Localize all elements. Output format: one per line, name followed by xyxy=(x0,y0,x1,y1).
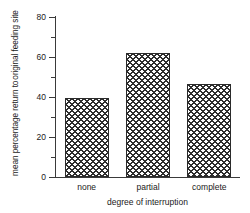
bar-partial xyxy=(126,53,170,177)
y-tick-major-0 xyxy=(49,177,55,178)
bar-none xyxy=(65,98,109,177)
y-tick-minor-30 xyxy=(51,117,55,118)
bars-layer xyxy=(56,17,240,177)
y-tick-major-20 xyxy=(49,137,55,138)
bar-complete xyxy=(187,84,231,177)
y-tick-major-80 xyxy=(49,17,55,18)
y-tick-label-80: 80 xyxy=(24,13,46,22)
y-tick-minor-70 xyxy=(51,37,55,38)
y-axis-title-line-2: original feeding site xyxy=(11,10,21,80)
y-axis-title-line-1: mean percentage return to xyxy=(11,81,21,176)
x-axis-title: degree of interruption xyxy=(55,198,240,207)
y-tick-major-60 xyxy=(49,57,55,58)
y-tick-label-0: 0 xyxy=(24,173,46,182)
x-tick-label-none: none xyxy=(57,183,117,192)
y-tick-minor-10 xyxy=(51,157,55,158)
y-tick-label-40: 40 xyxy=(24,93,46,102)
x-tick-label-partial: partial xyxy=(118,183,178,192)
y-tick-major-40 xyxy=(49,97,55,98)
x-tick-label-complete: complete xyxy=(179,183,239,192)
y-tick-label-60: 60 xyxy=(24,53,46,62)
y-tick-label-20: 20 xyxy=(24,133,46,142)
bar-chart-figure: mean percentage return to original feedi… xyxy=(0,0,250,213)
y-tick-minor-50 xyxy=(51,77,55,78)
x-axis-line xyxy=(55,177,240,178)
